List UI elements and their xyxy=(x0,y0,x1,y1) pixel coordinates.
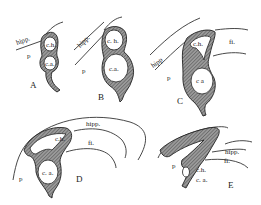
label-fi-c: fi. xyxy=(229,38,235,46)
label-hipp-d: hipp. xyxy=(86,120,100,128)
label-ch-c: c.h. xyxy=(193,40,203,48)
panel-b: c. h. c.a. hipp. p B xyxy=(74,17,134,102)
panel-label-e: E xyxy=(228,180,234,190)
panel-d: c.h. c. a. hipp. fi. p D xyxy=(13,117,146,198)
panel-e: c.h. c. a. hipp. fi. p E xyxy=(158,127,252,190)
label-hipp-e: hipp. xyxy=(225,148,239,156)
label-ch-e: c.h. xyxy=(196,166,206,174)
label-ca-c: c a xyxy=(196,77,205,85)
diagram-figure: c.h. c.a. hipp. p A c. h. c.a. hipp. p B… xyxy=(0,0,261,205)
label-p-a: p xyxy=(27,52,31,60)
label-ca-e: c. a. xyxy=(196,176,208,184)
label-ch-b: c. h. xyxy=(107,37,119,45)
label-ch-d: c.h. xyxy=(55,135,65,143)
label-fi-d: fi. xyxy=(88,139,94,147)
label-ch-a: c.h. xyxy=(46,41,56,49)
label-ca-a: c.a. xyxy=(45,60,55,68)
panel-label-d: D xyxy=(76,174,83,184)
panel-label-a: A xyxy=(30,80,37,90)
panel-label-c: C xyxy=(177,96,183,106)
label-fi-e: fi. xyxy=(224,157,230,165)
label-p-c: p xyxy=(167,74,171,82)
label-ca-b: c.a. xyxy=(109,65,119,73)
label-ca-d: c. a. xyxy=(42,169,54,177)
panel-label-b: B xyxy=(98,92,104,102)
label-p-b: p xyxy=(82,67,86,75)
label-p-e: p xyxy=(172,162,176,170)
panel-c: c.h. c a hipp fi. p C xyxy=(150,18,248,116)
panel-a: c.h. c.a. hipp. p A xyxy=(15,22,63,92)
label-p-d: p xyxy=(19,175,23,183)
